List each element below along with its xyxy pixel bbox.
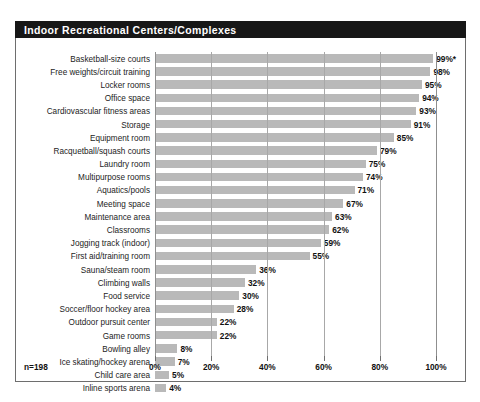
x-tick-label-60: 60%: [315, 362, 332, 372]
bar-value-label: 79%: [380, 146, 397, 156]
bar-row: Laundry room75%: [155, 158, 436, 171]
category-label: Laundry room: [99, 160, 150, 169]
bar: [155, 344, 177, 353]
bar-row: Climbing walls32%: [155, 276, 436, 289]
category-label: Equipment room: [90, 133, 150, 142]
grid-line-20: [211, 52, 212, 356]
chart-figure: Indoor Recreational Centers/Complexes Ba…: [0, 0, 480, 402]
x-tick-100: [436, 356, 437, 361]
category-label: Maintenance area: [84, 212, 150, 221]
bar: [155, 160, 366, 169]
bar-value-label: 67%: [346, 199, 363, 209]
bar-row: Free weights/circuit training98%: [155, 65, 436, 78]
category-label: Storage: [121, 120, 150, 129]
bar-row: Game rooms22%: [155, 329, 436, 342]
bar: [155, 225, 329, 234]
bar-value-label: 95%: [425, 80, 442, 90]
bar-row: Racquetball/squash courts79%: [155, 144, 436, 157]
category-label: Climbing walls: [98, 278, 150, 287]
category-label: Free weights/circuit training: [50, 67, 150, 76]
category-label: Food service: [103, 291, 150, 300]
bar-row: Multipurpose rooms74%: [155, 171, 436, 184]
category-label: Racquetball/squash courts: [54, 146, 151, 155]
bar-row: Outdoor pursuit center22%: [155, 316, 436, 329]
bar: [155, 212, 332, 221]
bar-value-label: 93%: [419, 106, 436, 116]
category-label: Outdoor pursuit center: [69, 318, 150, 327]
category-label: Office space: [105, 94, 150, 103]
page-title: Indoor Recreational Centers/Complexes: [24, 24, 237, 36]
bar-value-label: 28%: [237, 304, 254, 314]
bar: [155, 384, 166, 393]
bar-value-label: 75%: [369, 159, 386, 169]
bar: [155, 305, 234, 314]
category-label: Locker rooms: [100, 80, 150, 89]
bar: [155, 199, 343, 208]
bar: [155, 278, 245, 287]
bar-value-label: 55%: [313, 251, 330, 261]
bar-row: Sauna/steam room36%: [155, 263, 436, 276]
x-tick-60: [324, 356, 325, 361]
category-label: Sauna/steam room: [81, 265, 150, 274]
bar-value-label: 62%: [332, 225, 349, 235]
category-label: Multipurpose rooms: [78, 173, 150, 182]
bar-row: Soccer/floor hockey area28%: [155, 303, 436, 316]
chart-title-bar: Indoor Recreational Centers/Complexes: [15, 21, 466, 38]
x-tick-label-40: 40%: [259, 362, 276, 372]
x-tick-label-80: 80%: [371, 362, 388, 372]
bar-row: Inline sports arena4%: [155, 382, 436, 395]
bar-row: Cardiovascular fitness areas93%: [155, 105, 436, 118]
category-label: Cardiovascular fitness areas: [47, 107, 150, 116]
bar-value-label: 59%: [324, 238, 341, 248]
x-tick-20: [211, 356, 212, 361]
x-tick-label-20: 20%: [203, 362, 220, 372]
bar-rows: Basketball-size courts99%*Free weights/c…: [155, 52, 436, 395]
bar-value-label: 22%: [220, 317, 237, 327]
bar: [155, 107, 416, 116]
plot-area: Basketball-size courts99%*Free weights/c…: [155, 52, 436, 356]
x-tick-label-0: 0%: [149, 362, 161, 372]
grid-line-80: [380, 52, 381, 356]
bar-value-label: 99%*: [436, 54, 456, 64]
category-label: Inline sports arena: [83, 384, 150, 393]
bar-row: Bowling alley8%: [155, 342, 436, 355]
bar-value-label: 8%: [180, 344, 192, 354]
bar: [155, 265, 256, 274]
bar: [155, 239, 321, 248]
category-label: Classrooms: [107, 226, 150, 235]
category-label: Ice skating/hockey arena: [59, 357, 150, 366]
bar: [155, 252, 310, 261]
category-label: First aid/training room: [71, 252, 150, 261]
bar-row: Meeting space67%: [155, 197, 436, 210]
bar: [155, 146, 377, 155]
bar: [155, 291, 239, 300]
bar: [155, 120, 411, 129]
bar: [155, 80, 422, 89]
grid-line-60: [324, 52, 325, 356]
category-label: Basketball-size courts: [70, 54, 150, 63]
bar-row: Jogging track (indoor)59%: [155, 237, 436, 250]
bar: [155, 67, 430, 76]
bar-row: Storage91%: [155, 118, 436, 131]
bar: [155, 331, 217, 340]
bar-value-label: 4%: [169, 383, 181, 393]
bar: [155, 173, 363, 182]
bar-value-label: 30%: [242, 291, 259, 301]
bar: [155, 133, 394, 142]
bar-value-label: 32%: [248, 278, 265, 288]
bar: [155, 54, 433, 63]
category-label: Aquatics/pools: [97, 186, 150, 195]
grid-line-100: [436, 52, 437, 356]
category-label: Bowling alley: [102, 344, 150, 353]
bar-row: Maintenance area63%: [155, 210, 436, 223]
bar-value-label: 63%: [335, 212, 352, 222]
category-label: Jogging track (indoor): [71, 239, 150, 248]
x-tick-0: [155, 356, 156, 361]
sample-size-note: n=198: [24, 362, 48, 372]
grid-line-0: [155, 52, 156, 356]
bar-row: Food service30%: [155, 289, 436, 302]
x-axis: 0%20%40%60%80%100%: [155, 362, 436, 376]
x-tick-80: [380, 356, 381, 361]
bar-value-label: 71%: [358, 185, 375, 195]
bar-row: Locker rooms95%: [155, 78, 436, 91]
